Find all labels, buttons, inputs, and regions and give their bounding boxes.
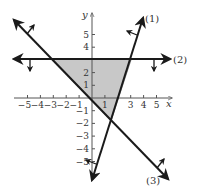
y-tick-label: 5 (83, 30, 89, 40)
x-tick-label: 1 (102, 100, 108, 110)
x-tick-label: 3 (128, 100, 134, 110)
x-tick-label: −2 (57, 100, 70, 110)
shade-arrow-line-3-top (27, 25, 34, 34)
line-1-label: (1) (145, 13, 159, 24)
y-tick-label: −2 (76, 118, 89, 128)
x-tick-label: 5 (154, 100, 160, 110)
x-tick-label: −3 (44, 100, 58, 110)
y-axis-label: y (81, 9, 88, 20)
y-tick-label: −4 (76, 144, 90, 154)
y-tick-label: −5 (76, 157, 90, 167)
y-tick-label: −1 (76, 106, 89, 116)
shade-arrow-line-1-top (127, 31, 137, 35)
line-2-label: (2) (173, 54, 187, 65)
x-axis-label: x (166, 98, 172, 109)
x-tick-label: −4 (31, 100, 45, 110)
x-tick-label: 4 (141, 100, 147, 110)
y-tick-label: 2 (83, 68, 89, 78)
y-tick-label: −3 (76, 131, 90, 141)
y-tick-label: 4 (83, 42, 89, 52)
line-3-label: (3) (146, 175, 160, 186)
shade-arrow-line-3-bottom (157, 159, 164, 168)
inequality-graph: −5−4−3−2−11345 5421−1−2−3−4−5 x y (2) (1… (0, 0, 198, 195)
x-tick-label: −5 (18, 100, 32, 110)
y-tick-label: 1 (83, 80, 89, 90)
